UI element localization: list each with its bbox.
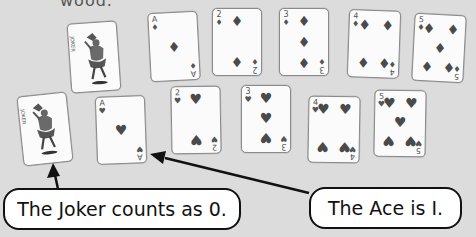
callout-joker: The Joker counts as 0. (3, 188, 241, 230)
callout-ace: The Ace is I. (309, 187, 462, 229)
arrow-to-joker-icon (47, 163, 60, 189)
arrow-to-ace-icon (150, 151, 309, 193)
